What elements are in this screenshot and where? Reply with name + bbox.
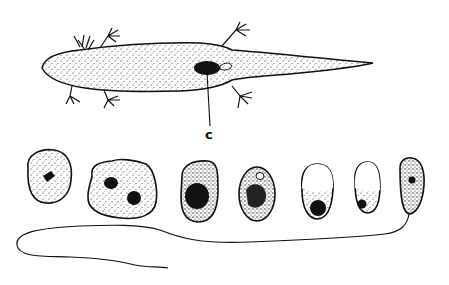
illustration bbox=[0, 0, 449, 285]
label-c: c bbox=[205, 127, 213, 142]
cell-2 bbox=[88, 160, 157, 219]
cell-1 bbox=[28, 150, 72, 203]
cell-5 bbox=[302, 164, 333, 219]
cell-6 bbox=[355, 162, 380, 213]
flagellum bbox=[17, 214, 409, 268]
cell-7 bbox=[400, 158, 424, 214]
axolotl bbox=[42, 22, 373, 126]
cell-3 bbox=[181, 161, 218, 222]
cell-row bbox=[17, 150, 424, 268]
cell-4 bbox=[239, 167, 275, 221]
